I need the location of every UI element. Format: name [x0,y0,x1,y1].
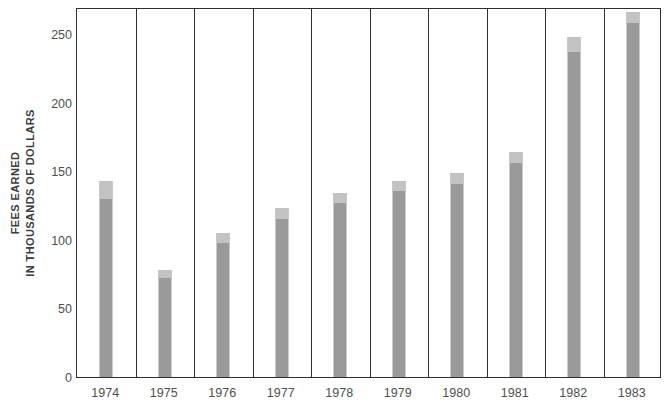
bar-chart-figure: FEES EARNED IN THOUSANDS OF DOLLARS 0501… [0,0,666,417]
category-separator-line [194,9,195,377]
x-tick-label: 1975 [150,386,178,400]
x-axis-tick-labels: 1974197519761977197819791980198119821983 [76,386,661,408]
category-separator-line [253,9,254,377]
bar-cap-segment [626,12,639,23]
bar-cap-segment [509,152,522,163]
x-tick-label: 1980 [442,386,470,400]
y-axis-title-line1: FEES EARNED [9,152,21,235]
bar-cap-segment [568,37,581,52]
bar [392,181,405,377]
x-tick-label: 1982 [559,386,587,400]
bar-cap-segment [217,233,230,243]
y-axis-title-text: FEES EARNED IN THOUSANDS OF DOLLARS [8,109,38,276]
bar [334,193,347,377]
category-separator-line [136,9,137,377]
x-tick-label: 1977 [267,386,295,400]
x-tick-label: 1974 [91,386,119,400]
y-tick-label: 0 [40,372,72,384]
y-axis-tick-labels: 050100150200250 [40,0,72,417]
bar [451,173,464,377]
bar [626,12,639,377]
plot-area [76,8,661,378]
bar-cap-segment [334,193,347,203]
x-tick-label: 1978 [325,386,353,400]
category-separator-line [428,9,429,377]
category-separator-line [604,9,605,377]
x-tick-label: 1976 [208,386,236,400]
category-separator-line [370,9,371,377]
y-tick-label: 200 [40,98,72,110]
bar [509,152,522,377]
category-separator-line [487,9,488,377]
bar-cap-segment [392,181,405,191]
category-separator-line [545,9,546,377]
y-axis-title-line2: IN THOUSANDS OF DOLLARS [23,109,38,276]
plot-inner [77,9,660,377]
y-tick-label: 100 [40,235,72,247]
bar-cap-segment [451,173,464,184]
bar [568,37,581,377]
x-tick-label: 1981 [501,386,529,400]
x-tick-label: 1979 [384,386,412,400]
category-separator-line [311,9,312,377]
bar [100,181,113,377]
bar [275,208,288,377]
y-tick-label: 50 [40,303,72,315]
bar-cap-segment [100,181,113,199]
bar-cap-segment [275,208,288,219]
bar [158,270,171,377]
bar [217,233,230,377]
x-tick-label: 1983 [618,386,646,400]
y-tick-label: 150 [40,166,72,178]
bar-cap-segment [158,270,171,278]
y-tick-label: 250 [40,29,72,41]
